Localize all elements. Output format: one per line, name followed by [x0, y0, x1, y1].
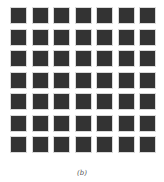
grid-cell: [54, 116, 69, 131]
grid-cell: [119, 73, 134, 88]
grid-cell: [119, 94, 134, 109]
grid-cell: [76, 116, 91, 131]
grid-cell: [11, 73, 26, 88]
grid-cell: [119, 8, 134, 23]
grid-cell: [11, 137, 26, 152]
grid-cell: [76, 137, 91, 152]
grid-cell: [119, 51, 134, 66]
grid-cell: [54, 30, 69, 45]
grid-cell: [119, 116, 134, 131]
grid-cell: [140, 30, 155, 45]
grid-cell: [140, 137, 155, 152]
grid-cell: [11, 8, 26, 23]
grid-cell: [33, 30, 48, 45]
grid-cell: [140, 94, 155, 109]
grid-cell: [97, 30, 112, 45]
grid-cell: [33, 116, 48, 131]
grid-cell: [54, 51, 69, 66]
grid-cell: [54, 137, 69, 152]
grid-cell: [33, 8, 48, 23]
grid-cell: [76, 51, 91, 66]
grid-cell: [76, 8, 91, 23]
grid-cell: [33, 137, 48, 152]
grid-cell: [140, 8, 155, 23]
figure-caption: (b): [0, 169, 164, 177]
filter-grid: [11, 8, 155, 152]
grid-cell: [97, 51, 112, 66]
grid-cell: [33, 51, 48, 66]
grid-cell: [76, 94, 91, 109]
grid-cell: [54, 8, 69, 23]
grid-cell: [140, 51, 155, 66]
grid-cell: [11, 116, 26, 131]
grid-cell: [11, 94, 26, 109]
grid-cell: [119, 30, 134, 45]
grid-cell: [76, 30, 91, 45]
grid-cell: [11, 30, 26, 45]
grid-cell: [97, 116, 112, 131]
grid-cell: [97, 73, 112, 88]
grid-cell: [11, 51, 26, 66]
grid-cell: [33, 73, 48, 88]
grid-cell: [119, 137, 134, 152]
grid-cell: [97, 137, 112, 152]
grid-cell: [76, 73, 91, 88]
grid-cell: [33, 94, 48, 109]
grid-cell: [97, 8, 112, 23]
grid-cell: [140, 73, 155, 88]
grid-cell: [97, 94, 112, 109]
grid-cell: [54, 94, 69, 109]
grid-cell: [54, 73, 69, 88]
grid-cell: [140, 116, 155, 131]
